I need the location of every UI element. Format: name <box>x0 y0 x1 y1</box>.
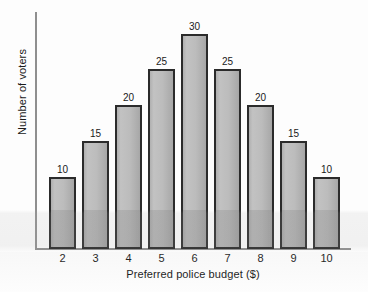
bar[interactable] <box>82 141 109 249</box>
bar-value-label: 15 <box>79 128 112 139</box>
bar-value-label: 25 <box>211 56 244 67</box>
x-tick-label: 3 <box>79 252 112 264</box>
bar-shade <box>84 210 107 247</box>
x-axis-title: Preferred police budget ($) <box>35 268 351 280</box>
bar-shade <box>51 210 74 247</box>
bar-slot: 20 <box>244 12 277 249</box>
x-tick-label: 8 <box>244 252 277 264</box>
bar[interactable] <box>115 105 142 249</box>
x-tick-label: 9 <box>277 252 310 264</box>
bar-shade <box>282 210 305 247</box>
bar[interactable] <box>280 141 307 249</box>
bar[interactable] <box>313 177 340 249</box>
bar-shade <box>150 210 173 247</box>
bar-chart: Number of voters Preferred police budget… <box>0 0 368 292</box>
bar-shade <box>315 210 338 247</box>
plot-area: 101520253025201510 <box>37 12 351 249</box>
x-tick-label: 4 <box>112 252 145 264</box>
bar-shade <box>117 210 140 247</box>
bar-slot: 10 <box>310 12 343 249</box>
x-tick-label: 6 <box>178 252 211 264</box>
x-tick-label: 2 <box>46 252 79 264</box>
x-tick-label: 7 <box>211 252 244 264</box>
x-tick-label: 10 <box>310 252 343 264</box>
bar-shade <box>216 210 239 247</box>
bar-slot: 25 <box>211 12 244 249</box>
bar-slot: 10 <box>46 12 79 249</box>
bar[interactable] <box>148 69 175 249</box>
bar-value-label: 25 <box>145 56 178 67</box>
bar-slot: 15 <box>277 12 310 249</box>
bar-shade <box>183 210 206 247</box>
bar-value-label: 30 <box>178 21 211 32</box>
bar-value-label: 15 <box>277 128 310 139</box>
bar-slot: 20 <box>112 12 145 249</box>
bar-value-label: 20 <box>244 92 277 103</box>
bar-slot: 30 <box>178 12 211 249</box>
x-tick-label: 5 <box>145 252 178 264</box>
bar[interactable] <box>181 34 208 249</box>
bar-value-label: 10 <box>310 164 343 175</box>
bar-value-label: 20 <box>112 92 145 103</box>
bar[interactable] <box>49 177 76 249</box>
bar-slot: 25 <box>145 12 178 249</box>
bar[interactable] <box>247 105 274 249</box>
bar-slot: 15 <box>79 12 112 249</box>
bar-value-label: 10 <box>46 164 79 175</box>
bar[interactable] <box>214 69 241 249</box>
y-axis-title: Number of voters <box>16 32 28 152</box>
bar-shade <box>249 210 272 247</box>
